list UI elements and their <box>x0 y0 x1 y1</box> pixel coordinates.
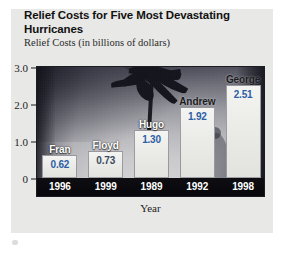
x-axis-tick-label: 1996 <box>40 181 80 192</box>
bar-george[interactable]: 2.51George <box>226 85 261 178</box>
bar-name-label: Hugo <box>123 119 180 130</box>
bar-value-label: 2.51 <box>227 89 260 100</box>
page-background: Relief Costs for Five Most Devastating H… <box>0 0 291 253</box>
bar-andrew[interactable]: 1.92Andrew <box>180 107 215 178</box>
bar-name-label: George <box>215 74 265 85</box>
bar-value-label: 1.30 <box>135 134 168 145</box>
plot-area: 0.62Fran0.73Floyd1.30Hugo1.92Andrew2.51G… <box>36 66 265 197</box>
scan-artifact <box>12 240 18 245</box>
bar-fran[interactable]: 0.62Fran <box>42 155 77 178</box>
y-axis-tick-label: 0 <box>0 173 28 185</box>
bar-value-label: 0.62 <box>43 159 76 170</box>
x-axis-strip: 19961999198919921998 <box>37 178 264 196</box>
bar-name-label: Floyd <box>77 140 134 151</box>
x-axis-title: Year <box>36 202 265 214</box>
bar-hugo[interactable]: 1.30Hugo <box>134 130 169 178</box>
chart-subtitle: Relief Costs (in billions of dollars) <box>24 37 170 48</box>
chart-title: Relief Costs for Five Most Devastating H… <box>24 9 244 36</box>
x-axis-tick-label: 1999 <box>86 181 126 192</box>
bar-value-label: 1.92 <box>181 111 214 122</box>
y-axis-tick-label: 2.0 <box>0 99 28 111</box>
bar-floyd[interactable]: 0.73Floyd <box>88 151 123 178</box>
y-axis-tick-label: 1.0 <box>0 136 28 148</box>
bar-name-label: Andrew <box>169 96 226 107</box>
bar-value-label: 0.73 <box>89 155 122 166</box>
x-axis-tick-label: 1992 <box>177 181 217 192</box>
y-axis-tick-label: 3.0 <box>0 62 28 74</box>
x-axis-tick-label: 1989 <box>132 181 172 192</box>
x-axis-tick-label: 1998 <box>223 181 263 192</box>
